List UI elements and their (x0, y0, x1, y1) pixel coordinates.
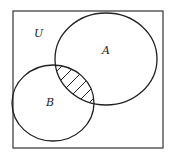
set-a-label: A (101, 44, 110, 57)
set-a-circle (55, 13, 157, 105)
universe-label: U (34, 27, 44, 40)
set-b-label: B (45, 96, 54, 109)
venn-diagram: U A B (0, 0, 172, 161)
